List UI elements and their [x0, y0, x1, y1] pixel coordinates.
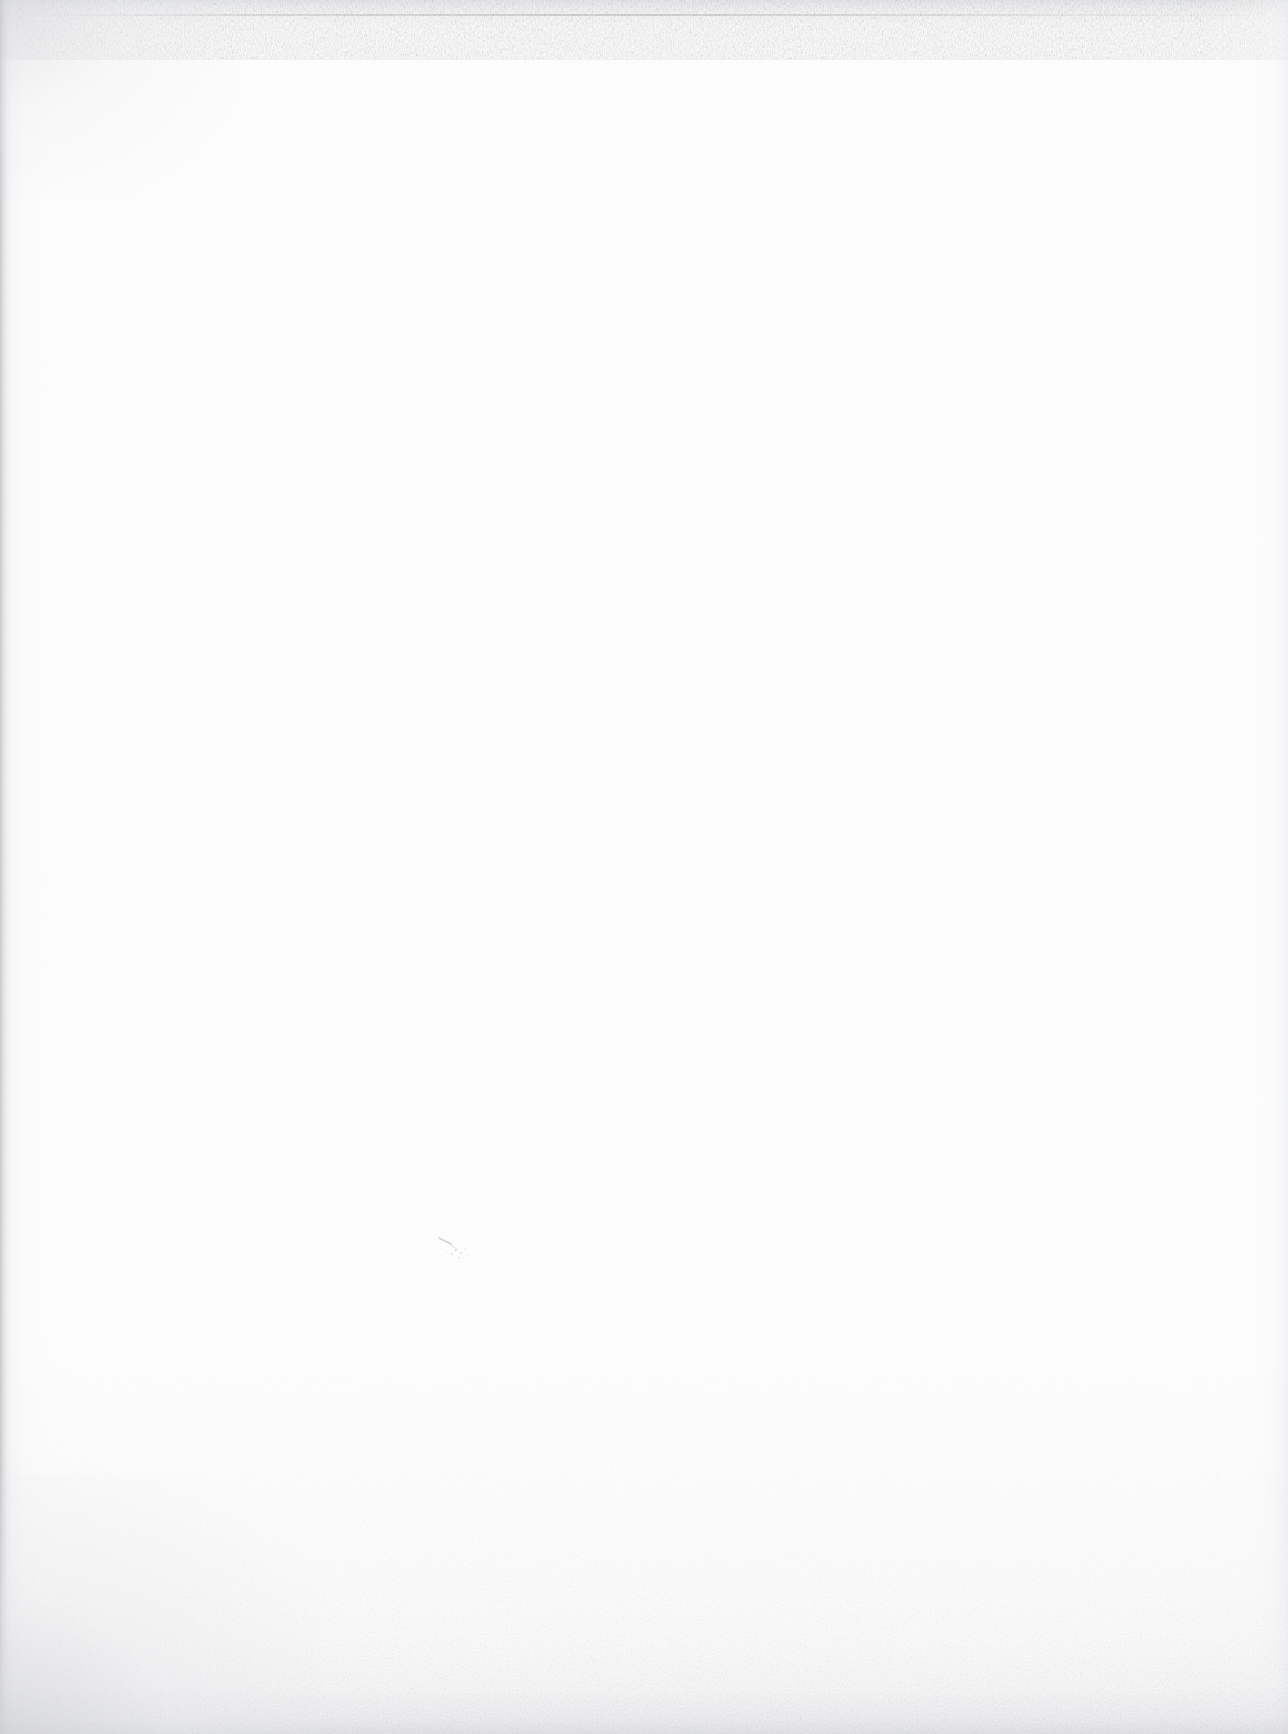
- scanned-page: [0, 0, 1288, 1734]
- paper-surface: [0, 0, 1288, 1734]
